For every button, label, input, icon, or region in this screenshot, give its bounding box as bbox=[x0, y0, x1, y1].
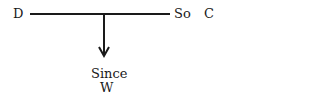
claim-label: C bbox=[204, 7, 214, 21]
warrant-label: W bbox=[100, 81, 113, 95]
since-label: Since bbox=[91, 67, 127, 81]
so-label: So bbox=[174, 7, 191, 21]
